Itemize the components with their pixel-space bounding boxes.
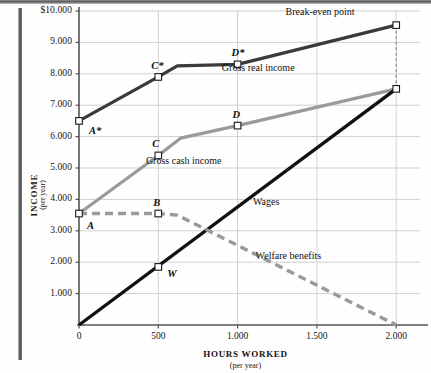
y-axis-subtitle: (per year): [39, 174, 47, 217]
y-tick-label: 7.000: [50, 99, 72, 109]
data-point-marker[interactable]: [393, 22, 400, 29]
data-point-marker[interactable]: [155, 264, 162, 271]
data-point-marker[interactable]: [234, 122, 241, 129]
point-label-c: C: [152, 138, 159, 149]
point-label-b: B: [153, 197, 160, 208]
data-point-marker[interactable]: [76, 210, 83, 217]
data-point-marker[interactable]: [76, 118, 83, 125]
y-tick-label: 4.000: [50, 193, 72, 203]
chart-canvas: [0, 0, 431, 373]
y-tick-label: 9.000: [50, 36, 72, 46]
y-tick-label: 5.000: [50, 162, 72, 172]
y-tick-label: 8.000: [50, 68, 72, 78]
data-point-marker[interactable]: [155, 210, 162, 217]
x-tick-label: 1.500: [287, 331, 347, 341]
point-label-a: A: [87, 220, 94, 231]
y-axis-title-group: INCOME (per year): [30, 150, 46, 240]
point-label-w: W: [167, 268, 176, 279]
annotation-welfare-benefits: Welfare benefits: [256, 250, 322, 261]
x-tick-label: 2.000: [366, 331, 426, 341]
point-label-d-star: D*: [232, 47, 245, 58]
annotation-break-even-point: Break-even point: [286, 6, 355, 17]
chart-figure: INCOME (per year) HOURS WORKED (per year…: [0, 0, 431, 373]
data-point-marker[interactable]: [393, 86, 400, 93]
y-tick-label: 1.000: [50, 288, 72, 298]
point-label-d: D: [233, 109, 241, 120]
x-axis-subtitle: (per year): [230, 361, 261, 370]
point-label-a-star: A*: [89, 125, 101, 136]
x-tick-label: 0: [49, 331, 109, 341]
data-point-marker[interactable]: [155, 74, 162, 81]
point-label-c-star: C*: [151, 60, 163, 71]
y-tick-label: $10.000: [40, 5, 72, 15]
y-tick-label: 6.000: [50, 131, 72, 141]
annotation-gross-real-income: Gross real income: [222, 62, 295, 73]
y-tick-label: 3.000: [50, 225, 72, 235]
x-axis-title: HOURS WORKED: [203, 349, 288, 359]
annotation-wages: Wages: [253, 196, 279, 207]
x-tick-label: 1.000: [208, 331, 268, 341]
y-tick-label: 2.000: [50, 256, 72, 266]
annotation-gross-cash-income: Gross cash income: [146, 155, 222, 166]
x-tick-label: 500: [128, 331, 188, 341]
plot-area: [0, 0, 431, 373]
